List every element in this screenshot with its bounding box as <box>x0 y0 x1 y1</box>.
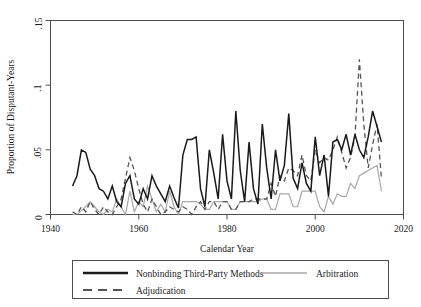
proportion-of-disputant-years-line-chart: 0.05.1.15 19401960198020002020 Proportio… <box>0 0 421 307</box>
x-tick-label: 1980 <box>218 224 237 234</box>
x-tick-label: 2000 <box>306 224 325 234</box>
legend-label-arbitration: Arbitration <box>316 269 358 279</box>
x-axis-title: Calendar Year <box>200 244 255 254</box>
legend-label-nonbinding-third-party-methods: Nonbinding Third-Party Methods <box>136 269 264 279</box>
legend-label-adjudication: Adjudication <box>136 286 186 296</box>
y-tick-label: 0 <box>34 215 44 220</box>
x-tick-label: 1940 <box>41 224 60 234</box>
y-tick-label: .15 <box>34 17 44 29</box>
y-tick-label: .05 <box>34 147 44 159</box>
y-axis-title: Proportion of Disputant-Years <box>6 59 16 174</box>
chart-figure: 0.05.1.15 19401960198020002020 Proportio… <box>0 0 421 307</box>
x-tick-label: 2020 <box>394 224 413 234</box>
y-tick-label: .1 <box>34 84 44 91</box>
x-tick-label: 1960 <box>129 224 148 234</box>
